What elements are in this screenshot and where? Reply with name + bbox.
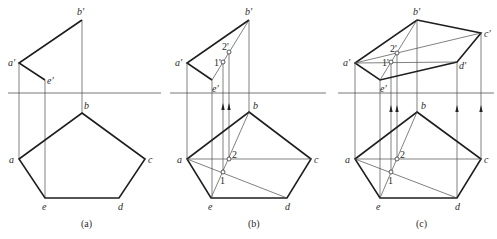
label-b: b bbox=[253, 100, 258, 111]
arrow-up-d bbox=[455, 105, 458, 112]
caption-b: (b) bbox=[248, 218, 260, 230]
diagonal-ad bbox=[187, 159, 287, 198]
panel-c: b' c' a' d' e' 1' 2' b a c 2 1 e d (c) bbox=[338, 6, 494, 230]
label-a: a bbox=[345, 154, 350, 165]
label-c: c bbox=[148, 154, 153, 165]
label-b: b bbox=[84, 100, 89, 111]
arrow-up-1 bbox=[389, 105, 392, 112]
front-view-pentagon bbox=[355, 20, 481, 80]
auxiliary-line-b-prime-e-prime bbox=[212, 20, 249, 80]
point-1 bbox=[221, 170, 225, 174]
label-d: d bbox=[455, 201, 461, 212]
auxiliary-line-b-prime-e-prime bbox=[380, 20, 417, 80]
point-2 bbox=[395, 157, 399, 161]
label-e: e bbox=[376, 201, 381, 212]
point-2 bbox=[227, 157, 231, 161]
label-2: 2 bbox=[232, 149, 237, 160]
label-b: b bbox=[421, 100, 426, 111]
label-b-prime: b' bbox=[77, 6, 85, 17]
label-a-prime: a' bbox=[8, 57, 16, 68]
label-a: a bbox=[177, 154, 182, 165]
label-c: c bbox=[314, 154, 319, 165]
point-1-prime bbox=[389, 60, 393, 64]
label-2-prime: 2' bbox=[390, 43, 397, 54]
point-1 bbox=[389, 170, 393, 174]
label-d: d bbox=[285, 201, 291, 212]
caption-c: (c) bbox=[416, 218, 427, 230]
panel-a: b' a' e' b a c e d (a) bbox=[8, 6, 161, 230]
front-view-edges bbox=[187, 20, 249, 80]
label-1-prime: 1' bbox=[214, 57, 221, 68]
label-1-prime: 1' bbox=[382, 57, 389, 68]
diagram-canvas: b' a' e' b a c e d (a) b' a' bbox=[0, 0, 497, 239]
arrow-up-2 bbox=[395, 105, 398, 112]
label-e: e bbox=[42, 201, 47, 212]
label-e-prime: e' bbox=[380, 83, 387, 94]
label-a-prime: a' bbox=[343, 57, 351, 68]
label-a-prime: a' bbox=[175, 57, 183, 68]
panel-b: b' a' e' 1' 2' b a c 2 1 e d (b) bbox=[170, 6, 326, 230]
label-a: a bbox=[9, 154, 14, 165]
label-c-prime: c' bbox=[484, 28, 491, 39]
top-view-pentagon bbox=[355, 112, 481, 198]
auxiliary-line-a-prime-d-prime bbox=[355, 62, 457, 63]
diagonal-ad bbox=[355, 159, 457, 198]
label-2: 2 bbox=[400, 149, 405, 160]
label-2-prime: 2' bbox=[222, 41, 229, 52]
front-view-edges bbox=[19, 20, 82, 80]
label-e-prime: e' bbox=[47, 75, 54, 86]
label-1: 1 bbox=[388, 175, 393, 186]
diagonal-be bbox=[211, 112, 249, 198]
arrow-up-c bbox=[479, 105, 482, 112]
diagonal-be bbox=[380, 112, 417, 198]
label-b-prime: b' bbox=[413, 6, 421, 17]
arrow-up-2 bbox=[227, 103, 230, 110]
label-c: c bbox=[484, 154, 489, 165]
label-e: e bbox=[208, 201, 213, 212]
point-1-prime bbox=[221, 60, 225, 64]
arrow-up-1 bbox=[221, 103, 224, 110]
top-view-pentagon bbox=[19, 113, 145, 198]
label-d-prime: d' bbox=[459, 60, 467, 71]
label-d: d bbox=[118, 201, 124, 212]
auxiliary-line-a-prime-c-prime bbox=[355, 33, 481, 63]
label-1: 1 bbox=[220, 175, 225, 186]
label-b-prime: b' bbox=[245, 6, 253, 17]
label-e-prime: e' bbox=[212, 83, 219, 94]
top-view-pentagon bbox=[187, 112, 311, 198]
caption-a: (a) bbox=[81, 218, 92, 230]
